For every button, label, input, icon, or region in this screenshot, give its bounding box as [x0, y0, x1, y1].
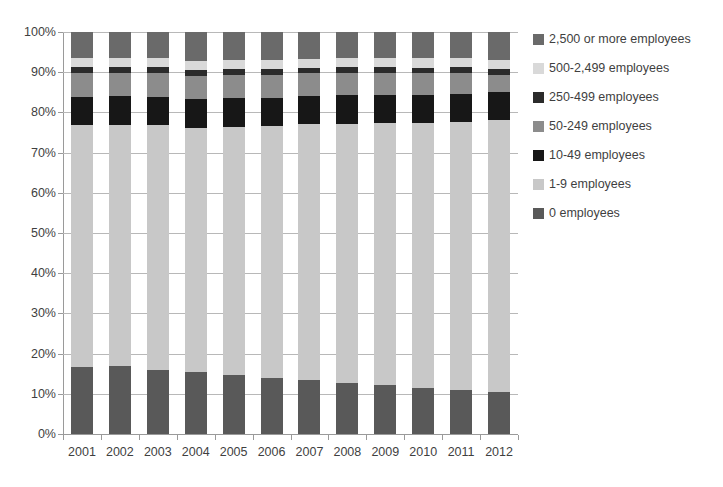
legend-item[interactable]: 500-2,499 employees	[533, 60, 723, 76]
bar-segment[interactable]	[488, 75, 510, 92]
bar-segment[interactable]	[336, 67, 358, 73]
bar-column[interactable]	[336, 32, 358, 434]
bar-segment[interactable]	[450, 58, 472, 68]
bar-segment[interactable]	[223, 375, 245, 434]
bar-segment[interactable]	[374, 73, 396, 95]
bar-segment[interactable]	[71, 32, 93, 58]
bar-segment[interactable]	[374, 32, 396, 58]
bar-segment[interactable]	[71, 97, 93, 125]
bar-segment[interactable]	[147, 58, 169, 67]
bar-segment[interactable]	[412, 68, 434, 73]
bar-segment[interactable]	[412, 73, 434, 95]
bar-segment[interactable]	[185, 128, 207, 372]
bar-column[interactable]	[109, 32, 131, 434]
bar-segment[interactable]	[374, 67, 396, 73]
bar-segment[interactable]	[488, 392, 510, 434]
bar-segment[interactable]	[223, 32, 245, 60]
bar-segment[interactable]	[298, 59, 320, 68]
bar-segment[interactable]	[185, 61, 207, 70]
bar-segment[interactable]	[71, 58, 93, 67]
bar-segment[interactable]	[71, 125, 93, 367]
bar-segment[interactable]	[223, 98, 245, 127]
bar-segment[interactable]	[109, 125, 131, 366]
bar-segment[interactable]	[71, 73, 93, 96]
bar-segment[interactable]	[450, 67, 472, 72]
bar-segment[interactable]	[336, 124, 358, 382]
bar-segment[interactable]	[261, 98, 283, 127]
bar-segment[interactable]	[488, 120, 510, 392]
bar-segment[interactable]	[298, 73, 320, 96]
bar-segment[interactable]	[412, 388, 434, 434]
bar-segment[interactable]	[336, 383, 358, 434]
legend-item[interactable]: 10-49 employees	[533, 147, 723, 163]
bar-column[interactable]	[374, 32, 396, 434]
bar-segment[interactable]	[147, 370, 169, 434]
bar-segment[interactable]	[298, 32, 320, 59]
bar-column[interactable]	[450, 32, 472, 434]
bar-segment[interactable]	[374, 123, 396, 385]
bar-segment[interactable]	[488, 60, 510, 70]
bar-column[interactable]	[261, 32, 283, 434]
bar-segment[interactable]	[147, 125, 169, 370]
bar-segment[interactable]	[109, 366, 131, 434]
legend-item[interactable]: 0 employees	[533, 205, 723, 221]
bar-column[interactable]	[412, 32, 434, 434]
bar-segment[interactable]	[185, 70, 207, 76]
bar-segment[interactable]	[109, 32, 131, 58]
bar-segment[interactable]	[412, 32, 434, 58]
bar-segment[interactable]	[298, 96, 320, 125]
bar-segment[interactable]	[109, 96, 131, 125]
bar-segment[interactable]	[185, 99, 207, 128]
bar-segment[interactable]	[185, 32, 207, 61]
bar-segment[interactable]	[450, 94, 472, 123]
bar-segment[interactable]	[147, 67, 169, 73]
bar-segment[interactable]	[374, 58, 396, 67]
bar-segment[interactable]	[185, 76, 207, 99]
bar-column[interactable]	[223, 32, 245, 434]
bar-segment[interactable]	[261, 32, 283, 60]
bar-segment[interactable]	[488, 32, 510, 60]
legend-item[interactable]: 250-499 employees	[533, 89, 723, 105]
bar-segment[interactable]	[336, 95, 358, 124]
bar-segment[interactable]	[71, 67, 93, 73]
legend-item[interactable]: 2,500 or more employees	[533, 31, 723, 47]
bar-segment[interactable]	[374, 95, 396, 124]
bar-segment[interactable]	[261, 378, 283, 434]
bar-segment[interactable]	[336, 73, 358, 95]
bar-segment[interactable]	[298, 68, 320, 74]
bar-segment[interactable]	[147, 73, 169, 96]
bar-segment[interactable]	[71, 367, 93, 434]
bar-segment[interactable]	[412, 58, 434, 68]
bar-column[interactable]	[488, 32, 510, 434]
legend-item[interactable]: 1-9 employees	[533, 176, 723, 192]
bar-segment[interactable]	[261, 126, 283, 377]
bar-segment[interactable]	[261, 69, 283, 75]
bar-segment[interactable]	[336, 58, 358, 67]
bar-column[interactable]	[71, 32, 93, 434]
bar-segment[interactable]	[147, 97, 169, 126]
bar-segment[interactable]	[450, 122, 472, 390]
bar-segment[interactable]	[336, 32, 358, 58]
legend-item[interactable]: 50-249 employees	[533, 118, 723, 134]
bar-segment[interactable]	[109, 67, 131, 73]
bar-column[interactable]	[298, 32, 320, 434]
bar-segment[interactable]	[261, 75, 283, 98]
bar-segment[interactable]	[488, 69, 510, 74]
bar-segment[interactable]	[109, 73, 131, 96]
bar-segment[interactable]	[298, 380, 320, 434]
bar-segment[interactable]	[450, 390, 472, 434]
bar-segment[interactable]	[109, 58, 131, 67]
bar-column[interactable]	[185, 32, 207, 434]
bar-segment[interactable]	[412, 95, 434, 124]
bar-segment[interactable]	[223, 60, 245, 69]
bar-segment[interactable]	[488, 92, 510, 121]
bar-segment[interactable]	[450, 73, 472, 94]
bar-segment[interactable]	[450, 32, 472, 58]
bar-segment[interactable]	[223, 69, 245, 75]
bar-segment[interactable]	[261, 60, 283, 69]
bar-segment[interactable]	[223, 75, 245, 98]
bar-segment[interactable]	[147, 32, 169, 58]
bar-column[interactable]	[147, 32, 169, 434]
bar-segment[interactable]	[298, 124, 320, 379]
bar-segment[interactable]	[412, 123, 434, 388]
